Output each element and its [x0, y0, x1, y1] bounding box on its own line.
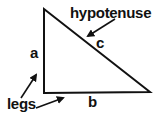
side-c-label: c — [96, 35, 104, 50]
right-triangle — [44, 9, 150, 93]
side-b-label: b — [88, 94, 97, 109]
hypotenuse-label: hypotenuse — [70, 5, 151, 20]
side-a-label: a — [30, 45, 38, 60]
leg-b-arrow — [36, 98, 63, 108]
legs-label: legs — [7, 96, 36, 111]
right-triangle-diagram: hypotenuse c a b legs — [0, 0, 158, 121]
